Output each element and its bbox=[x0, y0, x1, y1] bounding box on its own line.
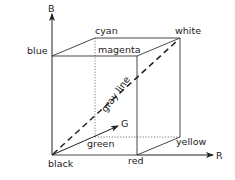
vertex-label-black: black bbox=[48, 158, 74, 169]
vertex-label-magenta: magenta bbox=[98, 44, 141, 55]
b-axis-label: B bbox=[48, 3, 55, 14]
edge-magenta-white bbox=[137, 38, 180, 56]
edge-red-yellow bbox=[137, 137, 180, 155]
vertex-label-blue: blue bbox=[27, 45, 48, 56]
gray-line-label: gray line bbox=[99, 74, 132, 114]
r-axis-label: R bbox=[216, 150, 223, 161]
vertex-label-white: white bbox=[175, 25, 201, 36]
vertex-label-green: green bbox=[87, 138, 114, 149]
edge-blue-cyan bbox=[52, 38, 95, 56]
g-axis-label: G bbox=[121, 118, 128, 129]
vertex-label-red: red bbox=[128, 155, 144, 166]
rgb-cube-diagram: B R G blue cyan magenta white green yell… bbox=[0, 0, 235, 180]
vertex-label-yellow: yellow bbox=[176, 136, 207, 147]
vertex-label-cyan: cyan bbox=[95, 25, 118, 36]
